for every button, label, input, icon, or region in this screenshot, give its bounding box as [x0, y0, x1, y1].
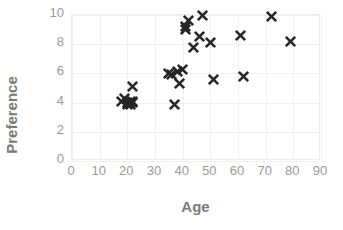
- x-tick-label: 80: [277, 163, 307, 178]
- gridline-vertical: [127, 15, 128, 159]
- gridline-vertical: [155, 15, 156, 159]
- x-tick-label: 20: [111, 163, 141, 178]
- gridline-vertical: [266, 15, 267, 159]
- gridline-vertical: [238, 15, 239, 159]
- gridline-horizontal: [72, 73, 319, 74]
- data-point-marker: [124, 98, 137, 111]
- y-tick-label: 10: [36, 5, 64, 20]
- gridline-horizontal: [72, 161, 319, 162]
- y-tick-label: 2: [36, 122, 64, 137]
- x-axis-title: Age: [71, 198, 320, 215]
- gridline-vertical: [72, 15, 73, 159]
- plot-area: [71, 14, 320, 160]
- data-point-marker: [173, 77, 186, 90]
- x-tick-label: 10: [84, 163, 114, 178]
- scatter-chart: Preference Age 0102030405060708090 02468…: [0, 0, 343, 230]
- y-tick-label: 8: [36, 34, 64, 49]
- y-axis-title: Preference: [0, 0, 22, 230]
- data-point-marker: [207, 73, 220, 86]
- gridline-vertical: [321, 15, 322, 159]
- y-tick-label: 4: [36, 93, 64, 108]
- data-point-marker: [234, 29, 247, 42]
- gridline-horizontal: [72, 44, 319, 45]
- gridline-horizontal: [72, 103, 319, 104]
- data-point-marker: [124, 95, 137, 108]
- data-point-marker: [168, 98, 181, 111]
- gridline-vertical: [100, 15, 101, 159]
- x-tick-label: 50: [194, 163, 224, 178]
- data-point-marker: [179, 23, 192, 36]
- x-tick-label: 70: [250, 163, 280, 178]
- gridline-vertical: [183, 15, 184, 159]
- x-tick-label: 60: [222, 163, 252, 178]
- gridline-horizontal: [72, 132, 319, 133]
- gridline-vertical: [210, 15, 211, 159]
- data-point-marker: [165, 68, 178, 81]
- gridline-vertical: [293, 15, 294, 159]
- x-tick-label: 90: [305, 163, 335, 178]
- data-point-marker: [193, 30, 206, 43]
- y-tick-label: 0: [36, 151, 64, 166]
- data-point-marker: [284, 35, 297, 48]
- x-tick-label: 40: [167, 163, 197, 178]
- x-tick-label: 30: [139, 163, 169, 178]
- data-point-marker: [179, 20, 192, 33]
- data-point-marker: [187, 41, 200, 54]
- gridline-horizontal: [72, 15, 319, 16]
- y-tick-label: 6: [36, 63, 64, 78]
